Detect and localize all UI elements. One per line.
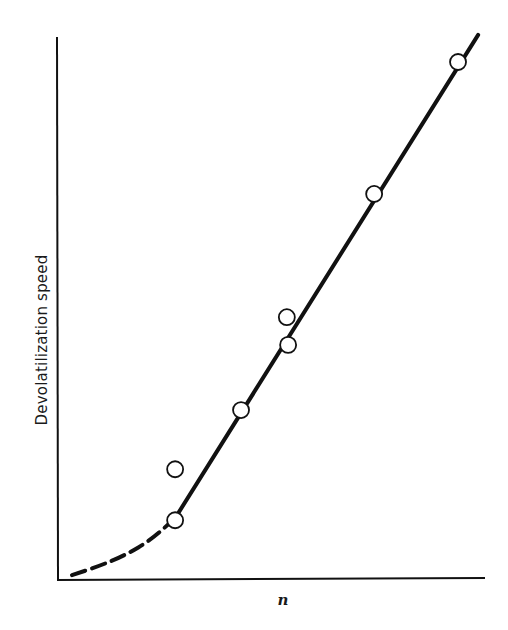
axes [57,37,485,580]
chart-plot [0,0,508,630]
data-point-marker [233,402,249,418]
data-point-marker [167,512,183,528]
data-point-marker [450,54,466,70]
y-axis-label: Devolatilization speed [33,255,51,426]
data-point-marker [280,337,296,353]
data-point-marker [167,461,183,477]
solid-fit-line [175,35,478,518]
dashed-fit-curve [72,518,175,575]
fit-lines [72,35,478,575]
x-axis-label: n [278,591,289,609]
data-point-marker [366,186,382,202]
data-point-marker [279,309,295,325]
x-axis-line [57,578,485,580]
y-axis-line [57,37,58,580]
